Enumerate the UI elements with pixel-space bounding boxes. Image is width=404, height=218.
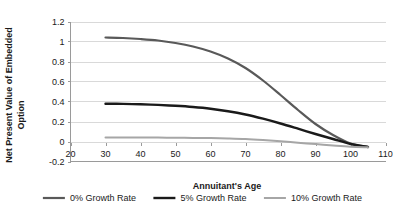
y-tick-label-4: 0.6 — [52, 77, 65, 87]
x-tick-label-6: 80 — [275, 149, 285, 159]
legend: 0% Growth Rate5% Growth Rate10% Growth R… — [43, 193, 362, 203]
x-tick-label-1: 30 — [100, 149, 110, 159]
legend-label-1: 5% Growth Rate — [180, 193, 246, 203]
x-tick-label-5: 70 — [240, 149, 250, 159]
x-tick-label-9: 110 — [378, 149, 392, 159]
y-tick-label-3: 0.4 — [52, 97, 65, 107]
y-tick-label-6: 1 — [59, 37, 64, 47]
x-axis-title: Annuitant's Age — [193, 181, 261, 191]
legend-item-2[interactable]: 10% Growth Rate — [264, 193, 362, 203]
chart-canvas: 2030405060708090100110 -0.200.20.40.60.8… — [0, 0, 404, 218]
series-line-0 — [106, 38, 369, 148]
x-tick-label-3: 50 — [170, 149, 180, 159]
x-tick-label-7: 90 — [310, 149, 320, 159]
y-tick-label-5: 0.8 — [52, 57, 65, 67]
chart-container: 2030405060708090100110 -0.200.20.40.60.8… — [0, 0, 404, 218]
legend-label-2: 10% Growth Rate — [291, 193, 362, 203]
legend-item-0[interactable]: 0% Growth Rate — [43, 193, 136, 203]
y-tick-label-1: 0 — [59, 137, 64, 147]
y-axis-title: Net Present Value of Embedded Option — [4, 27, 26, 163]
y-axis-title-line-1: Net Present Value of Embedded — [4, 27, 14, 163]
x-tick-label-2: 40 — [135, 149, 145, 159]
gridlines-group — [71, 23, 386, 143]
series-group — [106, 38, 369, 148]
y-tick-labels-group: -0.200.20.40.60.811.2 — [49, 17, 65, 167]
y-axis-title-line-2: Option — [16, 101, 26, 130]
x-tick-label-4: 60 — [205, 149, 215, 159]
series-line-1 — [106, 104, 369, 147]
y-tick-label-0: -0.2 — [49, 157, 65, 167]
legend-label-0: 0% Growth Rate — [70, 193, 136, 203]
x-tick-label-8: 100 — [343, 149, 358, 159]
y-tick-label-7: 1.2 — [52, 17, 65, 27]
y-tick-label-2: 0.2 — [52, 117, 65, 127]
legend-item-1[interactable]: 5% Growth Rate — [153, 193, 246, 203]
x-tick-labels-group: 2030405060708090100110 — [65, 149, 392, 159]
x-tick-label-0: 20 — [65, 149, 75, 159]
